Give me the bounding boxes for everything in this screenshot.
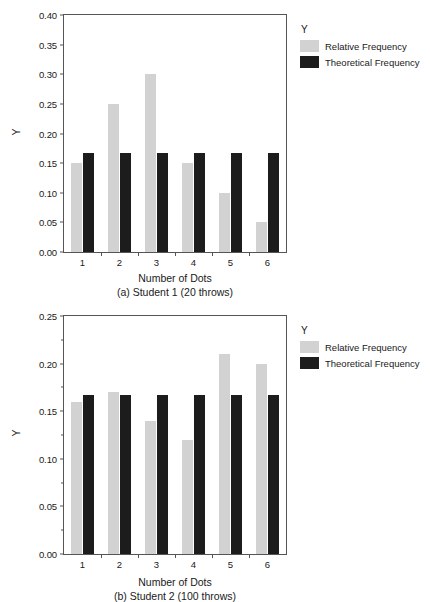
bar-theoretical-frequency [157,153,168,252]
y-tick-label: 0.20 [39,358,60,369]
y-tick-label: 0.10 [39,453,60,464]
legend-a: Y Relative Frequency Theoretical Frequen… [300,24,420,72]
legend-label-theoretical-frequency: Theoretical Frequency [325,358,420,369]
bar-theoretical-frequency [231,395,242,554]
y-tick: 0.25 [39,311,64,322]
y-tick-mark [60,554,64,555]
x-tick-mark [212,252,213,256]
legend-b: Y Relative Frequency Theoretical Frequen… [300,325,420,373]
bar-theoretical-frequency [120,153,131,252]
y-tick: 0.35 [39,39,64,50]
x-tick-label: 6 [265,257,270,268]
y-tick-label: 0.05 [39,217,60,228]
legend-item-theoretical-frequency: Theoretical Frequency [300,56,420,68]
y-tick-label: 0.30 [39,69,60,80]
y-axis-title-b: Y [10,423,22,443]
y-tick: 0.10 [39,187,64,198]
x-tick-mark [212,554,213,558]
y-tick: 0.00 [39,549,64,560]
y-tick-mark [60,133,64,134]
bar-theoretical-frequency [194,395,205,554]
y-minor-tick-mark [61,387,64,388]
y-axis-title-a: Y [10,122,22,142]
legend-swatch-theoretical-frequency [300,357,319,369]
x-axis-title-a: Number of Dots [63,272,287,284]
y-tick-mark [60,316,64,317]
plot-area-a: 0.000.050.100.150.200.250.300.350.40 123… [63,14,287,253]
plot-area-b: 0.000.050.100.150.200.25 123456 [63,315,287,555]
y-tick-label: 0.20 [39,128,60,139]
legend-swatch-theoretical-frequency [300,56,319,68]
bar-relative-frequency [71,163,82,252]
bar-relative-frequency [145,74,156,252]
y-tick: 0.40 [39,10,64,21]
y-tick-mark [60,192,64,193]
y-tick-label: 0.15 [39,406,60,417]
x-tick-label: 4 [191,559,196,570]
y-minor-tick-mark [61,339,64,340]
y-tick-mark [60,44,64,45]
x-tick-mark [249,554,250,558]
y-tick-mark [60,103,64,104]
y-tick-mark [60,411,64,412]
bar-theoretical-frequency [268,153,279,252]
x-tick-label: 4 [191,257,196,268]
x-tick-mark [138,252,139,256]
y-tick: 0.00 [39,247,64,258]
legend-label-theoretical-frequency: Theoretical Frequency [325,57,420,68]
x-tick-label: 1 [80,559,85,570]
bar-theoretical-frequency [194,153,205,252]
y-tick: 0.20 [39,358,64,369]
bar-theoretical-frequency [83,395,94,554]
y-tick-mark [60,222,64,223]
panel-student-2: Y 0.000.050.100.150.200.25 123456 Number… [0,299,430,601]
y-tick-mark [60,163,64,164]
x-tick-mark [138,554,139,558]
y-minor-tick [61,482,64,483]
y-tick: 0.30 [39,69,64,80]
y-tick: 0.10 [39,453,64,464]
y-tick-mark [60,458,64,459]
y-tick-label: 0.05 [39,501,60,512]
bar-theoretical-frequency [231,153,242,252]
bar-relative-frequency [219,193,230,252]
x-tick-mark [249,252,250,256]
y-tick: 0.25 [39,98,64,109]
y-tick-label: 0.00 [39,549,60,560]
y-tick: 0.15 [39,406,64,417]
bar-relative-frequency [256,222,267,252]
y-minor-tick [61,530,64,531]
bar-relative-frequency [182,440,193,554]
y-tick-mark [60,74,64,75]
y-tick-label: 0.35 [39,39,60,50]
bar-relative-frequency [108,104,119,252]
bar-group-b [64,316,286,554]
y-minor-tick [61,387,64,388]
y-tick-mark [60,252,64,253]
x-tick-mark [175,554,176,558]
y-minor-tick-mark [61,435,64,436]
legend-swatch-relative-frequency [300,40,319,52]
legend-item-relative-frequency: Relative Frequency [300,40,420,52]
bar-relative-frequency [219,354,230,554]
bar-group-a [64,15,286,252]
x-tick-mark [101,252,102,256]
y-tick-label: 0.10 [39,187,60,198]
x-tick-label: 5 [228,559,233,570]
legend-swatch-relative-frequency [300,341,319,353]
panel-caption-b: (b) Student 2 (100 throws) [63,590,287,602]
bar-relative-frequency [71,402,82,554]
y-tick-mark [60,15,64,16]
y-tick: 0.20 [39,128,64,139]
y-tick-label: 0.40 [39,10,60,21]
y-tick-mark [60,363,64,364]
x-tick-label: 2 [117,559,122,570]
x-tick-label: 6 [265,559,270,570]
legend-label-relative-frequency: Relative Frequency [325,342,407,353]
y-tick-label: 0.00 [39,247,60,258]
legend-title-b: Y [300,325,420,336]
bar-relative-frequency [108,392,119,554]
y-tick: 0.05 [39,217,64,228]
bar-relative-frequency [145,421,156,554]
